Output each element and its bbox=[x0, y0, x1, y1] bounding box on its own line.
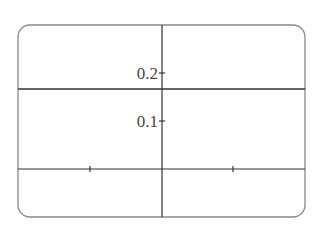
y-tick-label-0.2: 0.2 bbox=[137, 64, 158, 83]
y-tick-label-0.1: 0.1 bbox=[137, 112, 158, 131]
graph-window: 0.2 0.1 bbox=[0, 0, 315, 235]
